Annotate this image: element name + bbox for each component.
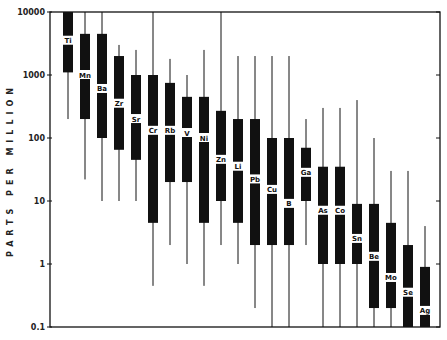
element-bar-b: B <box>283 56 295 327</box>
element-label: Cu <box>267 186 277 194</box>
element-label: Li <box>235 163 242 171</box>
element-label: Ba <box>97 85 107 93</box>
range-box <box>386 223 396 308</box>
element-bar-cr: Cr <box>147 12 159 286</box>
element-bar-cu: Cu <box>266 56 278 327</box>
y-tick-label: 10 <box>34 197 46 206</box>
element-bar-li: Li <box>232 56 244 264</box>
element-bar-ni: Ni <box>198 50 210 286</box>
y-tick-label: 1 <box>39 260 45 269</box>
element-bar-zn: Zn <box>215 12 227 245</box>
element-bar-co: Co <box>334 108 346 327</box>
element-bar-v: V <box>181 75 193 264</box>
plot-border <box>50 12 440 327</box>
element-label: Sn <box>352 235 362 243</box>
element-bar-as: As <box>317 108 329 327</box>
element-bar-be: Be <box>368 138 380 327</box>
element-label: Pb <box>250 176 260 184</box>
element-bar-sr: Sr <box>130 50 142 201</box>
element-bar-ga: Ga <box>300 119 312 245</box>
element-bar-mn: Mn <box>79 12 91 179</box>
range-box <box>318 167 328 264</box>
plot-frame <box>50 12 440 327</box>
element-bar-ti: Ti <box>62 12 74 119</box>
box-plot-chart: 1000010001001010.1 PARTS PER MILLION TiM… <box>0 0 447 340</box>
element-label: Rb <box>165 127 175 135</box>
element-bar-ba: Ba <box>96 12 108 201</box>
element-label: Mn <box>79 72 91 80</box>
range-box <box>182 97 192 182</box>
element-bar-ag: Ag <box>419 226 431 327</box>
element-bar-pb: Pb <box>249 56 261 308</box>
y-tick-label: 100 <box>28 134 45 143</box>
element-bar-zr: Zr <box>113 45 125 201</box>
y-tick-label: 1000 <box>23 71 46 80</box>
element-label: Mo <box>385 274 397 282</box>
y-tick-label: 10000 <box>17 8 45 17</box>
element-label: Co <box>335 207 345 215</box>
element-label: V <box>184 130 190 138</box>
element-label: B <box>286 200 291 208</box>
element-label: Be <box>369 253 379 261</box>
element-label: Ag <box>420 307 430 315</box>
element-label: Cr <box>149 127 158 135</box>
element-bar-se: Se <box>402 171 414 327</box>
element-label: As <box>318 207 328 215</box>
element-label: Ti <box>64 37 71 45</box>
element-bar-mo: Mo <box>385 171 397 327</box>
element-label: Se <box>403 289 413 297</box>
range-box <box>403 245 413 327</box>
element-label: Zr <box>115 100 124 108</box>
range-box <box>199 97 209 223</box>
y-axis-label: PARTS PER MILLION <box>6 83 15 257</box>
y-axis-title: PARTS PER MILLION <box>6 83 15 257</box>
element-label: Zn <box>216 156 226 164</box>
element-range-bars: TiMnBaZrSrCrRbVNiZnLiPbCuBGaAsCoSnBeMoSe… <box>62 12 431 327</box>
element-label: Ni <box>200 135 208 143</box>
range-box <box>148 75 158 223</box>
element-label: Sr <box>132 116 141 124</box>
range-box <box>420 267 430 327</box>
element-bar-sn: Sn <box>351 100 363 327</box>
range-box <box>284 138 294 245</box>
element-label: Ga <box>301 169 312 177</box>
y-tick-label: 0.1 <box>31 323 46 332</box>
element-bar-rb: Rb <box>164 59 176 245</box>
range-box <box>335 167 345 264</box>
